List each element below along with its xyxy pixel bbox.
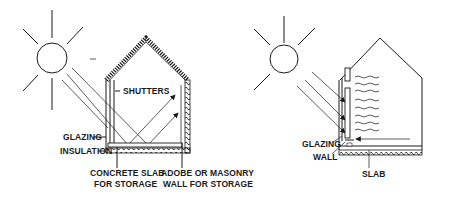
- right-diagram: GLAZING WALL SLAB: [254, 16, 422, 179]
- label-slab: SLAB: [362, 169, 386, 179]
- label-shutters: SHUTTERS: [123, 86, 170, 96]
- label-wall: WALL: [313, 152, 337, 162]
- sun-rays: [297, 72, 345, 133]
- label-insulation: INSULATION: [60, 146, 112, 156]
- left-diagram: SHUTTERS GLAZING INSULATION CONCRETE SLA…: [23, 10, 254, 189]
- label-wall-for-storage: WALL FOR STORAGE: [163, 179, 253, 189]
- label-adobe-wall: ADOBE OR MASONRY: [161, 168, 254, 178]
- heat-waves: [355, 76, 379, 131]
- house-right: [339, 38, 422, 155]
- label-concrete-slab: CONCRETE SLAB: [90, 168, 165, 178]
- label-glazing: GLAZING: [302, 139, 341, 149]
- solar-house-diagram: SHUTTERS GLAZING INSULATION CONCRETE SLA…: [0, 0, 452, 202]
- label-glazing: GLAZING: [63, 132, 102, 142]
- label-for-storage: FOR STORAGE: [94, 179, 158, 189]
- sun-icon: [254, 16, 315, 90]
